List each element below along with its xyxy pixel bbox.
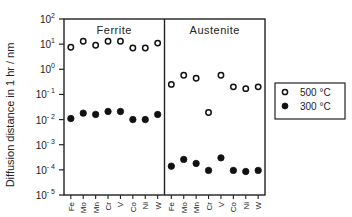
data-point-300c xyxy=(105,108,111,114)
y-tick-label: 10- 5 xyxy=(36,188,55,201)
panel-title: Austenite xyxy=(190,24,240,36)
y-tick-label: 102 xyxy=(40,12,55,25)
x-tick-label: Fe xyxy=(167,201,176,211)
data-point-300c xyxy=(92,111,98,117)
y-tick-label: 101 xyxy=(40,37,55,50)
data-point-300c xyxy=(205,167,211,173)
data-point-500c xyxy=(155,40,160,45)
data-point-300c xyxy=(193,160,199,166)
data-point-500c xyxy=(118,39,123,44)
data-point-500c xyxy=(243,86,248,91)
y-tick-label: 10- 2 xyxy=(36,113,55,126)
y-tick-label: 10- 4 xyxy=(36,163,55,176)
diffusion-chart: Diffusion distance in 1 hr / nm 10210110… xyxy=(0,0,352,217)
data-point-500c xyxy=(181,73,186,78)
data-point-300c xyxy=(243,168,249,174)
data-point-300c xyxy=(154,111,160,117)
data-point-500c xyxy=(255,84,260,89)
data-point-500c xyxy=(143,45,148,50)
x-tick-label: V xyxy=(217,201,226,207)
data-point-300c xyxy=(168,163,174,169)
x-tick-label: V xyxy=(116,201,125,207)
x-tick-label: Cr xyxy=(104,202,113,211)
data-point-500c xyxy=(218,73,223,78)
data-point-500c xyxy=(81,39,86,44)
x-tick-label: W xyxy=(254,202,263,210)
data-point-500c xyxy=(93,43,98,48)
x-tick-label: Mo xyxy=(180,201,189,213)
x-tick-label: Mo xyxy=(79,201,88,213)
legend-open-circle-icon xyxy=(282,89,287,94)
legend-label: 300 °C xyxy=(300,101,331,112)
panel-austenite: AusteniteFeMoMnCrVCoNiW xyxy=(167,24,263,213)
data-point-300c xyxy=(68,115,74,121)
data-point-300c xyxy=(181,156,187,162)
data-point-500c xyxy=(231,84,236,89)
x-tick-label: Ni xyxy=(141,202,150,210)
data-point-300c xyxy=(142,116,148,122)
y-axis-label: Diffusion distance in 1 hr / nm xyxy=(4,43,16,188)
x-tick-label: Co xyxy=(229,201,238,212)
y-tick-label: 10- 3 xyxy=(36,138,55,151)
data-point-500c xyxy=(193,76,198,81)
data-point-500c xyxy=(130,45,135,50)
y-axis-title: Diffusion distance in 1 hr / nm xyxy=(4,43,16,188)
legend-filled-circle-icon xyxy=(282,103,288,109)
data-point-300c xyxy=(255,167,261,173)
x-tick-label: Ni xyxy=(242,202,251,210)
y-tick-label: 10- 1 xyxy=(36,87,55,100)
y-tick-label: 100 xyxy=(40,62,55,75)
data-point-500c xyxy=(169,82,174,87)
data-point-300c xyxy=(130,116,136,122)
legend: 500 °C300 °C xyxy=(275,83,345,119)
data-point-300c xyxy=(80,110,86,116)
data-point-300c xyxy=(117,108,123,114)
x-tick-label: Mn xyxy=(92,202,101,213)
panel-title: Ferrite xyxy=(97,24,132,36)
data-point-300c xyxy=(230,167,236,173)
x-tick-label: Cr xyxy=(205,202,214,211)
y-axis: 10210110010- 110- 210- 310- 410- 5 xyxy=(36,12,64,201)
data-point-300c xyxy=(218,155,224,161)
data-point-500c xyxy=(206,110,211,115)
data-point-500c xyxy=(105,39,110,44)
x-tick-label: Fe xyxy=(67,201,76,211)
x-tick-label: Co xyxy=(129,201,138,212)
legend-label: 500 °C xyxy=(300,87,331,98)
x-tick-label: Mn xyxy=(192,202,201,213)
x-tick-label: W xyxy=(154,202,163,210)
panel-ferrite: FerriteFeMoMnCrVCoNiW xyxy=(67,24,163,213)
data-point-500c xyxy=(68,45,73,50)
